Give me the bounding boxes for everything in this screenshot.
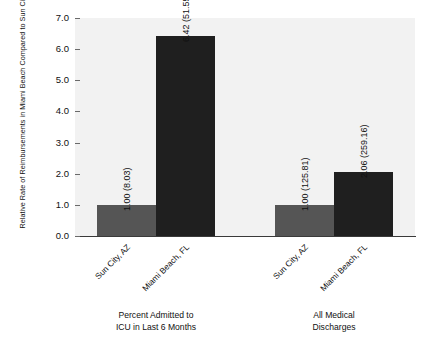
y-axis-tick-mark	[75, 111, 80, 112]
bar-chart: Relative Rate of Reimbursements in Miami…	[0, 0, 437, 346]
y-axis-tick-mark	[75, 18, 80, 19]
bar	[334, 172, 393, 236]
y-axis-tick-label: 3.0	[27, 137, 69, 148]
y-axis-tick-label: 7.0	[27, 12, 69, 23]
bar-value-label: 1.00 (8.03)	[122, 167, 132, 211]
y-axis-tick-label: 1.0	[27, 199, 69, 210]
bar-value-label: 2.06 (259.16)	[359, 124, 369, 178]
y-axis-tick-mark	[75, 205, 80, 206]
y-axis-tick-label: 6.0	[27, 43, 69, 54]
y-axis-tick-mark	[75, 49, 80, 50]
bar	[156, 36, 215, 236]
group-caption: All Medical Discharges	[259, 310, 409, 333]
y-axis-tick-label: 2.0	[27, 168, 69, 179]
y-axis-tick-mark	[75, 143, 80, 144]
group-caption: Percent Admitted to ICU in Last 6 Months	[81, 310, 231, 333]
bar-value-label: 6.42 (51.55)	[181, 0, 191, 42]
y-axis-tick-label: 4.0	[27, 105, 69, 116]
y-axis-tick-mark	[75, 174, 80, 175]
y-axis-tick-mark	[75, 80, 80, 81]
bar-value-label: 1.00 (125.81)	[300, 157, 310, 211]
y-axis-tick-label: 0.0	[27, 230, 69, 241]
y-axis-tick-mark	[75, 236, 80, 237]
y-axis-tick-label: 5.0	[27, 74, 69, 85]
